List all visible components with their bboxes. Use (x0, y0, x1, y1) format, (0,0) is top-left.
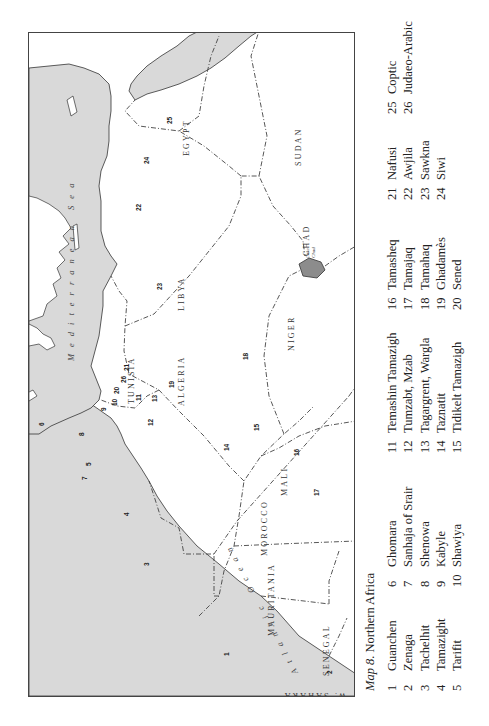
marker-26: 26 (120, 375, 127, 383)
red-sea (129, 32, 259, 100)
legend-item: 6Ghomara (384, 486, 400, 587)
marker-18: 18 (242, 352, 249, 360)
caption-label: Map 8 (363, 659, 377, 691)
legend-column-4: 16Tamasheq 17Tamajaq 18Tamahaq 19Ghadamè… (384, 237, 465, 310)
marker-23: 23 (156, 282, 163, 290)
legend-item: 26Judaeo-Arabic (400, 21, 416, 114)
legend-item: 22Awjila (400, 140, 416, 200)
legend-item: 4Tamazight (433, 618, 449, 691)
figure-caption: Map 8. Northern Africa (362, 573, 378, 691)
legend-item: 11Temashin Tamazigh (384, 333, 400, 453)
label-egypt: EGYPT (182, 119, 191, 156)
legend-item: 5Tarifit (449, 618, 465, 691)
legend-item: 8Shenowa (417, 486, 433, 587)
map-legend: Map 8. Northern Africa 1Guanchen 2Zenaga… (362, 35, 472, 695)
marker-19: 19 (168, 380, 175, 388)
marker-5: 5 (85, 462, 92, 466)
mediterranean-label: Mediterranean Sea (66, 177, 76, 362)
marker-16: 16 (293, 448, 300, 456)
legend-column-2: 6Ghomara 7Sanhaja of Srair 8Shenowa 9Kab… (384, 486, 465, 587)
marker-25: 25 (166, 116, 173, 124)
legend-item: 10Shawiya (449, 486, 465, 587)
marker-17: 17 (313, 488, 320, 496)
label-mali: MALI (280, 467, 289, 496)
label-niger: NIGER (287, 316, 296, 351)
rotated-page: Mediterranean Sea Atlantic Ocean W. SAHA… (0, 0, 489, 726)
marker-3: 3 (143, 562, 150, 566)
marker-10: 10 (111, 398, 118, 406)
legend-item: 18Tamahaq (417, 237, 433, 310)
marker-22: 22 (135, 203, 142, 211)
legend-item: 7Sanhaja of Srair (400, 486, 416, 587)
legend-item: 21Nafusi (384, 140, 400, 200)
marker-6: 6 (38, 422, 45, 426)
marker-1: 1 (223, 652, 230, 656)
marker-8: 8 (78, 432, 85, 436)
legend-item: 2Zenaga (400, 618, 416, 691)
legend-item: 9Kabyle (433, 486, 449, 587)
legend-column-1: 1Guanchen 2Zenaga 3Tachelhit 4Tamazight … (384, 618, 465, 691)
label-libya: LIBYA (177, 276, 186, 311)
marker-20: 20 (113, 386, 120, 394)
marker-14: 14 (223, 443, 230, 451)
marker-9: 9 (100, 407, 107, 411)
marker-11: 11 (135, 394, 142, 401)
marker-24: 24 (143, 156, 150, 164)
marker-12: 12 (147, 418, 154, 426)
marker-13: 13 (151, 394, 158, 402)
marker-2: 2 (326, 670, 333, 674)
lake-chad-label-1: Lake (305, 248, 310, 260)
marker-7: 7 (81, 476, 88, 480)
legend-item: 23Sawkna (417, 140, 433, 200)
label-w-sahara: W. SAHARA (282, 691, 346, 696)
lake-chad (299, 258, 325, 278)
marker-21: 21 (123, 363, 130, 371)
legend-item: 12Tumzabt, Mzab (400, 333, 416, 453)
legend-item: 24Siwi (433, 140, 449, 200)
legend-item: 15Tidikelt Tamazigh (449, 333, 465, 453)
label-algeria: ALGERIA (177, 355, 186, 406)
map-northern-africa: Mediterranean Sea Atlantic Ocean W. SAHA… (29, 32, 355, 696)
legend-item: 13Tagargrent, Wargla (417, 333, 433, 453)
legend-item: 1Guanchen (384, 618, 400, 691)
legend-item: 14Taznatit (433, 333, 449, 453)
label-morocco: MOROCCO (260, 500, 269, 556)
marker-15: 15 (253, 423, 260, 431)
legend-column-3: 11Temashin Tamazigh 12Tumzabt, Mzab 13Ta… (384, 333, 465, 453)
label-sudan: SUDAN (294, 127, 303, 166)
legend-column-6: 25Coptic 26Judaeo-Arabic (384, 21, 417, 114)
lake-chad-label-2: Chad (311, 247, 316, 258)
marker-4: 4 (123, 512, 130, 516)
label-mauritania: MAURITANIA (267, 563, 276, 636)
legend-item: 20Sened (449, 237, 465, 310)
legend-item: 3Tachelhit (417, 618, 433, 691)
legend-item: 17Tamajaq (400, 237, 416, 310)
legend-column-5: 21Nafusi 22Awjila 23Sawkna 24Siwi (384, 140, 449, 200)
map-frame: Mediterranean Sea Atlantic Ocean W. SAHA… (28, 32, 355, 697)
atlantic-ocean (29, 384, 355, 696)
caption-title: . Northern Africa (363, 573, 377, 659)
legend-item: 25Coptic (384, 21, 400, 114)
label-senegal: SENEGAL (322, 624, 331, 676)
legend-item: 16Tamasheq (384, 237, 400, 310)
legend-item: 19Ghadamès (433, 237, 449, 310)
